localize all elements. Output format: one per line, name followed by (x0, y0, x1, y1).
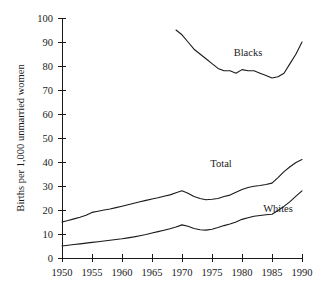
y-tick-label: 80 (43, 61, 54, 72)
x-tick-label: 1955 (82, 267, 103, 278)
x-tick-label: 1990 (292, 267, 313, 278)
y-tick-label: 50 (43, 133, 54, 144)
x-tick-label: 1975 (202, 267, 223, 278)
series-line-whites (62, 191, 302, 246)
y-tick-label: 90 (43, 37, 54, 48)
y-tick-label: 70 (43, 85, 54, 96)
y-axis-title-text: Births per 1,000 unmarried women (15, 64, 26, 212)
y-tick-label: 0 (48, 253, 53, 264)
x-tick-label: 1970 (172, 267, 193, 278)
y-axis-title: Births per 1,000 unmarried women (15, 64, 26, 212)
y-tick-label: 10 (43, 229, 54, 240)
x-tick-label: 1985 (262, 267, 283, 278)
x-tick-label: 1960 (112, 267, 133, 278)
line-chart: Births per 1,000 unmarried women 0102030… (0, 0, 321, 293)
y-tick-label: 40 (43, 157, 54, 168)
y-tick-label: 30 (43, 181, 54, 192)
chart-container: Births per 1,000 unmarried women 0102030… (0, 0, 321, 293)
series-label-blacks: Blacks (234, 47, 263, 58)
x-tick-label: 1965 (142, 267, 163, 278)
series-label-whites: Whites (263, 203, 293, 214)
x-tick-label: 1950 (52, 267, 73, 278)
y-tick-label: 100 (37, 13, 53, 24)
series-label-total: Total (210, 158, 232, 169)
x-tick-label: 1980 (232, 267, 253, 278)
y-tick-label: 20 (43, 205, 54, 216)
y-tick-label: 60 (43, 109, 54, 120)
series-labels: BlacksTotalWhites (210, 47, 293, 214)
